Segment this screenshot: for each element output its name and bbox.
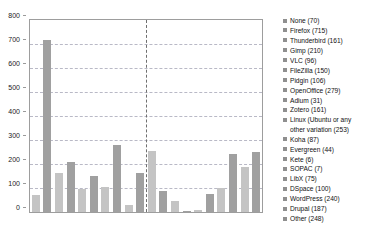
legend-item-label: OpenOffice (279) <box>290 86 340 95</box>
bar <box>148 151 156 212</box>
bar <box>125 205 133 212</box>
y-axis-tick-mark <box>23 207 26 208</box>
legend-item-label: Linux (Ubuntu or any other variation (25… <box>290 115 351 134</box>
legend-item: Gimp (210) <box>283 46 375 55</box>
y-axis-tick-mark <box>23 183 26 184</box>
legend-item: Evergreen (44) <box>283 145 375 154</box>
y-axis-tick-label: 300 <box>8 132 20 139</box>
legend-swatch-icon <box>283 157 287 161</box>
bar <box>241 167 249 212</box>
legend-item-label: WordPress (240) <box>290 194 340 203</box>
y-axis-tick-label: 400 <box>8 108 20 115</box>
legend-item: DSpace (100) <box>283 184 375 193</box>
legend-item-label: Zotero (161) <box>290 105 326 114</box>
y-axis-tick-label: 0 <box>16 204 20 211</box>
legend-item-label: Other (248) <box>290 214 324 223</box>
legend-swatch-icon <box>283 118 287 122</box>
bar <box>90 176 98 212</box>
y-axis-tick-label: 100 <box>8 180 20 187</box>
y-axis-tick-label: 800 <box>8 12 20 19</box>
bar <box>206 194 214 212</box>
legend-swatch-icon <box>283 19 287 23</box>
y-axis-tick-label: 600 <box>8 60 20 67</box>
legend-item-label: VLC (96) <box>290 56 316 65</box>
bars-group <box>30 20 262 212</box>
y-axis-tick-label: 500 <box>8 84 20 91</box>
y-axis-tick-mark <box>23 111 26 112</box>
bar <box>78 189 86 212</box>
legend-item: Linux (Ubuntu or any other variation (25… <box>283 115 375 134</box>
legend-swatch-icon <box>283 88 287 92</box>
legend-item: Koha (87) <box>283 135 375 144</box>
legend-swatch-icon <box>283 137 287 141</box>
legend-item-label: Drupal (187) <box>290 204 327 213</box>
y-axis-tick-mark <box>23 159 26 160</box>
bar <box>159 191 167 212</box>
legend-item: Kete (6) <box>283 155 375 164</box>
legend-item: Adium (31) <box>283 96 375 105</box>
legend-swatch-icon <box>283 98 287 102</box>
legend-item-label: None (70) <box>290 16 319 25</box>
legend-swatch-icon <box>283 147 287 151</box>
legend-item-label: Thunderbird (161) <box>290 36 343 45</box>
y-axis: 0100200300400500600700800 <box>0 14 26 212</box>
legend-swatch-icon <box>283 38 287 42</box>
legend-swatch-icon <box>283 167 287 171</box>
bar <box>101 187 109 212</box>
legend-item: FileZilla (150) <box>283 66 375 75</box>
legend-item: VLC (96) <box>283 56 375 65</box>
bar <box>194 210 202 212</box>
legend-swatch-icon <box>283 48 287 52</box>
legend-swatch-icon <box>283 217 287 221</box>
legend-swatch-icon <box>283 177 287 181</box>
legend-item-label: Firefox (715) <box>290 26 327 35</box>
legend-item: Other (248) <box>283 214 375 223</box>
legend-item: Thunderbird (161) <box>283 36 375 45</box>
legend-swatch-icon <box>283 28 287 32</box>
legend-item: None (70) <box>283 16 375 25</box>
plot-area <box>29 19 263 213</box>
legend-item-label: Kete (6) <box>290 155 313 164</box>
y-axis-tick-mark <box>23 87 26 88</box>
legend-item: LibX (75) <box>283 174 375 183</box>
legend-item: Firefox (715) <box>283 26 375 35</box>
bar <box>113 145 121 212</box>
legend-item-label: LibX (75) <box>290 174 317 183</box>
legend-item: Drupal (187) <box>283 204 375 213</box>
y-axis-tick-label: 700 <box>8 36 20 43</box>
bar <box>43 40 51 212</box>
legend-item: Pidgin (106) <box>283 76 375 85</box>
legend: None (70)Firefox (715)Thunderbird (161)G… <box>283 16 375 224</box>
bar <box>136 173 144 212</box>
legend-swatch-icon <box>283 58 287 62</box>
legend-item-label: SOPAC (7) <box>290 164 323 173</box>
legend-swatch-icon <box>283 68 287 72</box>
y-axis-tick-mark <box>23 15 26 16</box>
legend-swatch-icon <box>283 197 287 201</box>
bar <box>55 173 63 212</box>
legend-item: Zotero (161) <box>283 105 375 114</box>
legend-item-label: Gimp (210) <box>290 46 323 55</box>
bar <box>67 162 75 212</box>
bar <box>252 152 260 212</box>
bar-chart: 0100200300400500600700800 None (70)Firef… <box>0 0 375 233</box>
legend-item-label: FileZilla (150) <box>290 66 330 75</box>
y-axis-tick-mark <box>23 63 26 64</box>
y-axis-tick-mark <box>23 39 26 40</box>
legend-swatch-icon <box>283 108 287 112</box>
bar <box>217 188 225 212</box>
legend-item: SOPAC (7) <box>283 164 375 173</box>
bar <box>171 201 179 212</box>
legend-swatch-icon <box>283 187 287 191</box>
bar <box>183 211 191 212</box>
bar <box>229 154 237 212</box>
y-axis-tick-mark <box>23 135 26 136</box>
legend-item-label: Koha (87) <box>290 135 319 144</box>
legend-item: OpenOffice (279) <box>283 86 375 95</box>
legend-swatch-icon <box>283 78 287 82</box>
legend-item: WordPress (240) <box>283 194 375 203</box>
legend-item-label: Adium (31) <box>290 96 322 105</box>
y-axis-tick-label: 200 <box>8 156 20 163</box>
legend-item-label: Pidgin (106) <box>290 76 326 85</box>
bar <box>32 195 40 212</box>
